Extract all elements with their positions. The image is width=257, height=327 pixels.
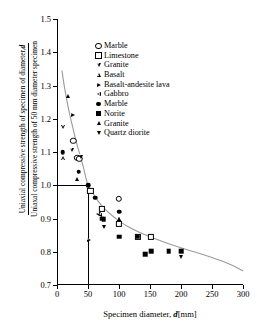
legend-marker <box>93 43 104 49</box>
data-point <box>116 195 122 201</box>
legend-item: Basalt <box>93 70 197 80</box>
marker-square-open <box>95 52 101 58</box>
marker-triangle-down-filled <box>179 255 183 259</box>
data-point <box>70 138 76 144</box>
marker-triangle-down-open <box>97 63 101 67</box>
marker-triangle-up-filled <box>117 217 121 221</box>
marker-triangle-down-filled <box>102 225 106 229</box>
legend-label: Basalt <box>104 70 124 80</box>
marker-square-open <box>116 221 122 227</box>
marker-square-filled <box>179 249 184 254</box>
legend-marker <box>93 102 104 107</box>
marker-triangle-right-open <box>71 113 75 117</box>
legend-marker <box>93 73 104 77</box>
legend-label: Norite <box>104 109 125 119</box>
legend-marker <box>93 83 104 87</box>
y-axis-label-numerator: Uniaxial compressive strength of specime… <box>18 43 29 216</box>
data-point <box>179 255 183 259</box>
x-tick-label: 50 <box>84 289 93 299</box>
legend-label: Quartz diorite <box>104 128 150 138</box>
legend-item: Norite <box>93 109 197 119</box>
data-point <box>75 177 79 181</box>
x-tick-label: 150 <box>144 289 157 299</box>
y-tick-label: 1.1 <box>40 147 51 157</box>
legend-item: Gabbro <box>93 89 197 99</box>
legend: MarbleLimestoneGraniteBasaltBasalt-andes… <box>93 41 197 138</box>
x-tick-label: 200 <box>175 289 188 299</box>
marker-circle-filled <box>60 150 65 155</box>
marker-circle-filled <box>76 169 81 174</box>
data-point <box>117 234 122 239</box>
legend-marker <box>93 131 104 135</box>
y-tick-label: 1.5 <box>40 14 51 24</box>
marker-triangle-right-open <box>97 83 101 87</box>
data-point <box>93 196 98 201</box>
marker-circle-filled <box>96 102 101 107</box>
data-point <box>143 252 148 257</box>
x-tick-label: 300 <box>237 289 250 299</box>
legend-label: Gabbro <box>104 89 129 99</box>
x-axis-title-text: Specimen diameter, <box>103 309 171 319</box>
data-point <box>149 249 154 254</box>
legend-marker <box>93 121 104 125</box>
marker-square-open <box>87 188 93 194</box>
data-point <box>61 156 65 160</box>
x-tick-label: 100 <box>113 289 126 299</box>
y-tick-label: 1.3 <box>40 81 51 91</box>
y-tick-label: 1.2 <box>40 114 51 124</box>
data-point <box>102 225 106 229</box>
marker-circle-open <box>70 138 76 144</box>
legend-label: Marble <box>104 99 128 109</box>
legend-marker <box>93 63 104 67</box>
data-point <box>117 210 122 215</box>
marker-circle-open <box>95 43 101 49</box>
data-point <box>79 155 83 159</box>
marker-triangle-up-open <box>61 156 65 160</box>
data-point <box>116 221 122 227</box>
legend-label: Granite <box>104 60 129 70</box>
y-tick-label: 0.7 <box>40 280 51 290</box>
data-point <box>179 249 184 254</box>
marker-square-filled <box>96 111 101 116</box>
data-point <box>87 238 91 242</box>
y-tick-label: 1.0 <box>40 180 51 190</box>
legend-item: Basalt-andesite lava <box>93 80 197 90</box>
legend-item: Granite <box>93 60 197 70</box>
marker-circle-filled <box>117 210 122 215</box>
legend-item: Granite <box>93 119 197 129</box>
legend-marker <box>93 52 104 58</box>
marker-square-filled <box>117 234 122 239</box>
legend-item: Marble <box>93 41 197 51</box>
y-axis-numerator-italic: d <box>18 45 27 49</box>
y-axis-label-denominator: Uniaxal compressive strength of 50 mm di… <box>29 41 39 217</box>
data-point <box>86 183 91 188</box>
legend-item: Marble <box>93 99 197 109</box>
marker-square-filled <box>149 249 154 254</box>
y-tick-label: 0.9 <box>40 214 51 224</box>
marker-square-open <box>148 234 154 240</box>
x-tick-label: 0 <box>55 289 59 299</box>
data-point <box>87 188 93 194</box>
marker-triangle-down-open <box>70 148 74 152</box>
data-point <box>148 234 154 240</box>
marker-triangle-up-filled <box>66 94 70 98</box>
marker-square-filled <box>166 249 171 254</box>
marker-circle-filled <box>86 183 91 188</box>
marker-triangle-left-open <box>97 92 101 96</box>
data-point <box>70 148 74 152</box>
marker-triangle-up-filled <box>75 177 79 181</box>
data-point <box>166 249 171 254</box>
y-tick-label: 1.4 <box>40 47 51 57</box>
data-point <box>135 234 140 239</box>
marker-square-filled <box>143 252 148 257</box>
marker-triangle-right-open <box>87 238 91 242</box>
data-point <box>76 169 81 174</box>
marker-circle-filled <box>93 196 98 201</box>
marker-square-filled <box>101 217 106 222</box>
x-tick-label: 250 <box>206 289 219 299</box>
data-point <box>71 113 75 117</box>
marker-square-filled <box>135 234 140 239</box>
data-point <box>61 125 65 129</box>
marker-triangle-down-filled <box>97 131 101 135</box>
legend-marker <box>93 111 104 116</box>
